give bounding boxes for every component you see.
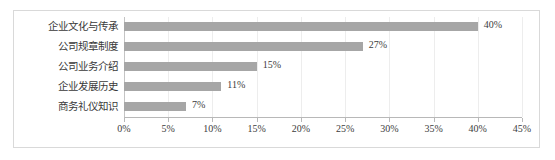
bar-row[interactable]: 7%	[124, 97, 522, 117]
bar-row[interactable]: 15%	[124, 57, 522, 77]
gridline-45%	[522, 17, 523, 117]
bar-value-label: 27%	[369, 39, 387, 50]
bar-row[interactable]: 40%	[124, 17, 522, 37]
category-label: 公司规章制度	[58, 37, 118, 57]
axis-tick	[124, 118, 125, 122]
axis-tick-label: 10%	[203, 123, 221, 134]
axis-tick-label: 0%	[117, 123, 130, 134]
category-label: 企业发展历史	[58, 77, 118, 97]
axis-tick	[257, 118, 258, 122]
value-axis-line	[124, 117, 522, 118]
axis-tick-label: 30%	[380, 123, 398, 134]
axis-tick	[212, 118, 213, 122]
bar[interactable]	[124, 82, 221, 91]
axis-tick-label: 5%	[162, 123, 175, 134]
category-label: 公司业务介绍	[58, 57, 118, 77]
bar[interactable]	[124, 102, 186, 111]
category-label: 企业文化与传承	[48, 17, 118, 37]
axis-tick	[434, 118, 435, 122]
axis-tick-label: 20%	[292, 123, 310, 134]
axis-tick	[345, 118, 346, 122]
axis-tick	[478, 118, 479, 122]
bar-value-label: 40%	[484, 19, 502, 30]
bar[interactable]	[124, 22, 478, 31]
axis-tick-label: 25%	[336, 123, 354, 134]
plot-area: 40%27%15%11%7%	[124, 17, 522, 117]
bar-row[interactable]: 27%	[124, 37, 522, 57]
axis-tick	[389, 118, 390, 122]
axis-tick-label: 35%	[424, 123, 442, 134]
axis-tick	[168, 118, 169, 122]
category-axis: 企业文化与传承公司规章制度公司业务介绍企业发展历史商务礼仪知识	[14, 17, 122, 117]
value-axis-tick-labels: 0%5%10%15%20%25%30%35%40%45%	[124, 123, 544, 141]
category-label: 商务礼仪知识	[58, 97, 118, 117]
bar-value-label: 11%	[227, 79, 245, 90]
bar-row[interactable]: 11%	[124, 77, 522, 97]
bar[interactable]	[124, 62, 257, 71]
axis-tick	[301, 118, 302, 122]
chart-frame: 企业文化与传承公司规章制度公司业务介绍企业发展历史商务礼仪知识 40%27%15…	[13, 10, 540, 148]
axis-tick-label: 15%	[247, 123, 265, 134]
axis-tick-label: 40%	[469, 123, 487, 134]
axis-tick	[522, 118, 523, 122]
bar[interactable]	[124, 42, 363, 51]
bar-value-label: 7%	[192, 99, 205, 110]
axis-tick-label: 45%	[513, 123, 531, 134]
bar-value-label: 15%	[263, 59, 281, 70]
